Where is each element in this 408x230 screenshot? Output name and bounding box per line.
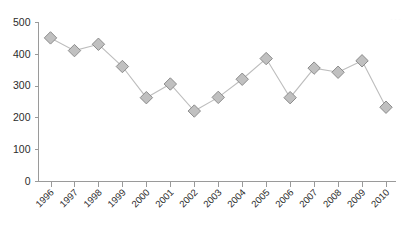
series-markers-1 (44, 32, 392, 118)
x-tick-label: 2010 (369, 187, 392, 210)
data-point-marker (44, 32, 56, 44)
x-tick-label: 1999 (105, 187, 128, 210)
data-point-marker (68, 44, 80, 56)
x-tick-labels: 1996199719981999200020012002200320042005… (33, 187, 391, 210)
x-tick-label: 2008 (321, 187, 344, 210)
x-tick-label: 2004 (225, 187, 248, 210)
x-tick-marks (51, 182, 387, 187)
y-tick-label: 300 (13, 79, 31, 91)
x-tick-label: 2003 (201, 187, 224, 210)
x-tick-label: 1998 (81, 187, 104, 210)
x-tick-label: 2007 (297, 187, 320, 210)
y-tick-label: 0 (25, 175, 31, 187)
y-tick-label: 400 (13, 48, 31, 60)
y-tick-label: 200 (13, 111, 31, 123)
y-tick-label: 100 (13, 143, 31, 155)
watermark: ··· (390, 14, 402, 24)
y-tick-marks (35, 23, 39, 182)
y-tick-labels: 0100200300400500 (13, 16, 31, 187)
data-point-marker (308, 62, 320, 74)
x-tick-label: 2009 (345, 187, 368, 210)
y-tick-label: 500 (13, 16, 31, 28)
data-point-marker (356, 55, 368, 67)
x-tick-label: 1997 (57, 187, 80, 210)
x-tick-label: 2000 (129, 187, 152, 210)
data-point-marker (140, 91, 152, 103)
x-tick-label: 2002 (177, 187, 200, 210)
data-point-marker (284, 91, 296, 103)
x-tick-label: 2001 (153, 187, 176, 210)
x-tick-label: 1996 (33, 187, 56, 210)
data-point-marker (332, 66, 344, 78)
data-point-marker (380, 101, 392, 113)
line-chart: 0100200300400500 19961997199819992000200… (0, 0, 408, 230)
x-tick-label: 2005 (249, 187, 272, 210)
x-tick-label: 2006 (273, 187, 296, 210)
chart-canvas: 0100200300400500 19961997199819992000200… (0, 0, 408, 230)
data-point-marker (212, 91, 224, 103)
